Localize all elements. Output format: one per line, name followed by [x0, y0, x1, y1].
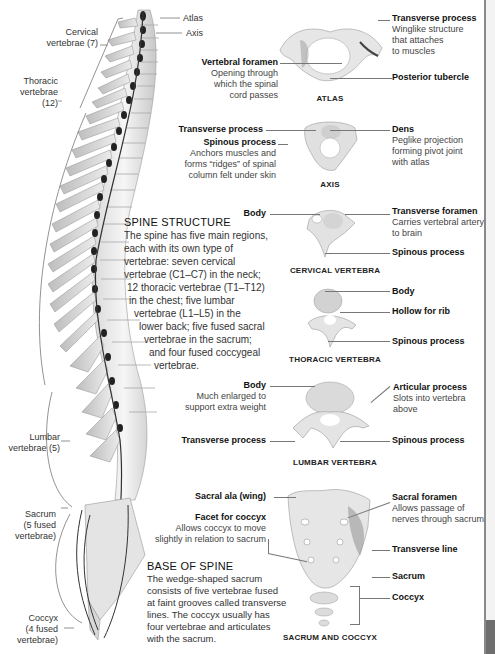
label-line: (4 fused [2, 624, 58, 635]
text-line: The spine has five main regions, [124, 229, 294, 242]
leader-line [350, 586, 360, 587]
label-desc: above [393, 404, 488, 415]
label-line: (5 fused [2, 520, 56, 531]
label-desc: to muscles [392, 46, 487, 57]
label-cervical-vertebrae: Cervical vertebrae (7) [38, 27, 98, 49]
label-line: vertebrae (12) [2, 87, 58, 109]
label-title: Spinous process [165, 137, 276, 148]
label-title: Transverse process [170, 435, 266, 446]
leader-line [270, 386, 315, 387]
leader-line [268, 539, 269, 553]
label-desc: which the spinal [190, 79, 278, 90]
coccyx: Coccyx [392, 592, 424, 603]
label-title: Spinous process [392, 247, 465, 258]
label-title: Spinous process [392, 336, 465, 347]
text-line: in the chest; five lumbar [129, 294, 294, 307]
text-line: each with its own type of [124, 242, 294, 255]
sacral-foramen: Sacral foramen Allows passage of nerves … [392, 492, 487, 525]
text-line: 12 thoracic vertebrae (T1–T12) [127, 281, 294, 294]
label-desc: Carries vertebral artery [392, 217, 487, 228]
leader-line [270, 214, 320, 215]
label-line: Thoracic [2, 76, 58, 87]
leader-line [360, 598, 390, 599]
spine-structure-heading: SPINE STRUCTURE [124, 216, 294, 229]
label-desc: Allows passage of [392, 503, 487, 514]
label-title: Hollow for rib [392, 306, 450, 317]
label-desc: Slots into vertebra [393, 393, 488, 404]
spine-structure-block: SPINE STRUCTURE The spine has five main … [124, 216, 294, 372]
label-title: Body [392, 286, 415, 297]
leader-line [278, 144, 288, 145]
cervical-caption: CERVICAL VERTEBRA [280, 266, 390, 275]
label-title: Spinous process [392, 435, 465, 446]
text-line: at faint grooves called transverse [147, 597, 297, 609]
label-desc: Winglike structure [392, 24, 487, 35]
lumbar-body: Body Much enlarged to support extra weig… [170, 380, 266, 413]
page-margin [486, 0, 495, 654]
axis-caption: AXIS [305, 180, 355, 189]
label-line: Coccyx [2, 613, 58, 624]
thoracic-spinous-process: Spinous process [392, 336, 465, 347]
text-line: vertebrae. [154, 359, 294, 372]
label-atlas: Atlas [183, 13, 203, 24]
leader-line [325, 291, 390, 292]
atlas-vertebral-foramen: Vertebral foramen Opening through which … [190, 57, 278, 101]
text-line: vertebrae (C1–C7) in the neck; [124, 268, 294, 281]
label-title: Transverse process [392, 13, 487, 24]
label-title: Dens [392, 124, 487, 135]
label-thoracic-vertebrae: Thoracic vertebrae (12) [2, 76, 58, 109]
lumbar-vertebra-illustration [285, 380, 375, 450]
text-line: lower back; five fused sacral [139, 320, 294, 333]
label-title: Transverse foramen [392, 206, 487, 217]
facet-for-coccyx: Facet for coccyx Allows coccyx to move s… [150, 512, 266, 545]
label-desc: Much enlarged to [170, 391, 266, 402]
leader-line [350, 624, 360, 625]
label-line: Cervical [38, 27, 98, 38]
leader-line [270, 441, 295, 442]
label-line: Lumbar [2, 432, 60, 443]
text-line: The wedge-shaped sacrum [147, 573, 297, 585]
leader-line [266, 130, 316, 131]
text-line: vertebrae (L1–L5) in the [134, 307, 294, 320]
label-desc: that attaches [392, 35, 487, 46]
thoracic-body: Body [392, 286, 415, 297]
label-axis: Axis [186, 28, 203, 39]
axis-dens: Dens Peglike projection forming pivot jo… [392, 124, 487, 168]
leader-line [274, 497, 296, 498]
base-of-spine-heading: BASE OF SPINE [147, 560, 297, 573]
label-desc: forms “ridges” of spinal [165, 159, 276, 170]
leader-line [378, 20, 390, 21]
label-desc: column felt under skin [165, 170, 276, 181]
label-line: vertebrae (5) [2, 443, 60, 454]
leader-line [340, 441, 390, 442]
atlas-posterior-tubercle: Posterior tubercle [392, 72, 469, 83]
label-title: Body [220, 208, 266, 219]
sacrum-coccyx-caption: SACRUM AND COCCYX [270, 633, 390, 642]
axis-spinous-process: Spinous process Anchors muscles and form… [165, 137, 276, 181]
label-coccyx: Coccyx (4 fused vertebrae) [2, 613, 58, 646]
sacrum: Sacrum [392, 571, 425, 582]
label-sacrum: Sacrum (5 fused vertebrae) [2, 509, 56, 542]
spine-structure-text: The spine has five main regions, each wi… [124, 229, 294, 372]
label-line: Sacrum [2, 509, 56, 520]
lumbar-caption: LUMBAR VERTEBRA [280, 458, 390, 467]
text-line: vertebrae in the sacrum; [144, 333, 294, 346]
sacral-ala: Sacral ala (wing) [170, 491, 266, 502]
label-line: vertebrae) [2, 531, 56, 542]
leader-line [330, 130, 390, 131]
thoracic-caption: THORACIC VERTEBRA [280, 355, 390, 364]
label-title: Articular process [393, 382, 488, 393]
atlas-illustration [270, 10, 390, 85]
text-line: lines. The coccyx usually has [147, 609, 297, 621]
label-desc: support extra weight [170, 402, 266, 413]
label-title: Sacral ala (wing) [170, 491, 266, 502]
leader-line [330, 78, 392, 79]
leader-line [345, 214, 390, 215]
label-title: Posterior tubercle [392, 72, 469, 83]
label-desc: Allows coccyx to move [150, 523, 266, 534]
thoracic-hollow-for-rib: Hollow for rib [392, 306, 450, 317]
label-title: Sacrum [392, 571, 425, 582]
leader-line [328, 341, 390, 342]
transverse-line: Transverse line [392, 544, 458, 555]
label-title: Transverse line [392, 544, 458, 555]
